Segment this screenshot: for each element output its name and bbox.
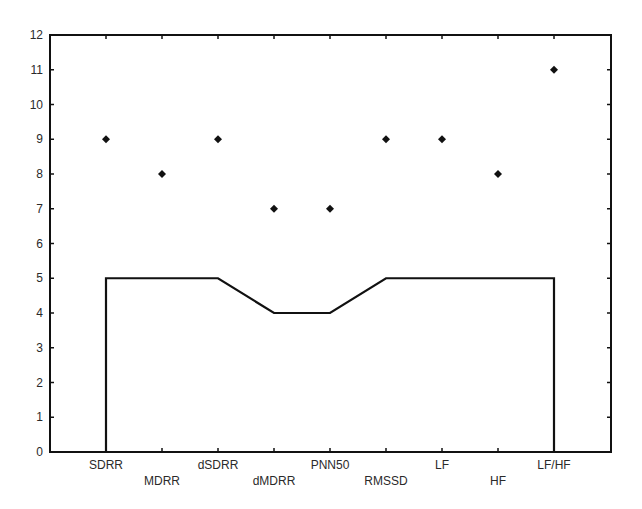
x-tick-label: MDRR: [144, 474, 180, 488]
diamond-marker: [382, 135, 390, 143]
diamond-marker: [326, 205, 334, 213]
x-tick-label: HF: [490, 474, 506, 488]
x-axis-labels: SDRRMDRRdSDRRdMDRRPNN50RMSSDLFHFLF/HF: [89, 35, 571, 488]
line-path: [106, 278, 554, 452]
plot-frame: [50, 35, 611, 452]
y-tick-label: 4: [36, 306, 43, 320]
x-tick-label: SDRR: [89, 458, 123, 472]
y-tick-label: 9: [36, 132, 43, 146]
x-tick-label: LF/HF: [537, 458, 570, 472]
y-tick-label: 5: [36, 271, 43, 285]
diamond-marker: [270, 205, 278, 213]
y-tick-label: 8: [36, 167, 43, 181]
y-tick-label: 12: [30, 28, 44, 42]
x-tick-label: PNN50: [311, 458, 350, 472]
y-tick-label: 11: [31, 63, 44, 77]
y-axis-ticks: 0123456789101112: [30, 28, 611, 459]
diamond-marker: [550, 66, 558, 74]
chart: 0123456789101112 SDRRMDRRdSDRRdMDRRPNN50…: [0, 0, 642, 509]
y-tick-label: 0: [36, 445, 43, 459]
diamond-marker: [158, 170, 166, 178]
step-line-series: [106, 278, 554, 452]
y-tick-label: 3: [36, 341, 43, 355]
diamond-marker: [102, 135, 110, 143]
x-tick-label: dMDRR: [253, 474, 296, 488]
diamond-marker: [214, 135, 222, 143]
diamond-marker: [494, 170, 502, 178]
x-tick-label: LF: [435, 458, 449, 472]
x-tick-label: dSDRR: [198, 458, 239, 472]
y-tick-label: 10: [30, 98, 44, 112]
x-tick-label: RMSSD: [364, 474, 408, 488]
y-tick-label: 7: [36, 202, 43, 216]
y-tick-label: 6: [36, 237, 43, 251]
diamond-marker: [438, 135, 446, 143]
scatter-series: [102, 66, 558, 213]
y-tick-label: 1: [36, 410, 43, 424]
y-tick-label: 2: [36, 376, 43, 390]
